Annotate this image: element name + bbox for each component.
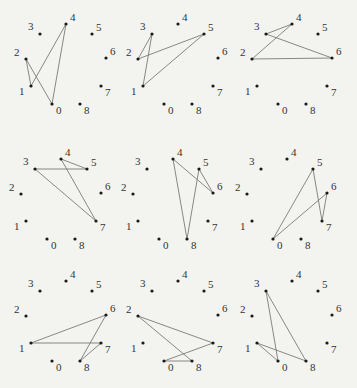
vertex-label-2: 2 <box>9 181 15 193</box>
vertex-3 <box>150 32 153 35</box>
vertex-2 <box>19 192 22 195</box>
vertex-5 <box>90 289 93 292</box>
vertex-0 <box>157 237 160 240</box>
edge-3-4 <box>266 24 292 34</box>
vertex-label-7: 7 <box>331 343 337 355</box>
vertex-1 <box>141 84 144 87</box>
vertex-8 <box>185 237 188 240</box>
vertex-label-0: 0 <box>56 361 62 373</box>
vertex-7 <box>320 219 323 222</box>
vertex-label-4: 4 <box>296 268 302 280</box>
vertex-3 <box>38 289 41 292</box>
vertex-5 <box>197 167 200 170</box>
vertex-5 <box>202 289 205 292</box>
vertex-label-8: 8 <box>305 239 311 251</box>
vertex-3 <box>259 167 262 170</box>
vertex-label-2: 2 <box>126 303 132 315</box>
vertex-8 <box>304 359 307 362</box>
vertex-4 <box>171 157 174 160</box>
vertex-label-5: 5 <box>322 21 328 33</box>
vertex-6 <box>104 56 107 59</box>
vertex-1 <box>255 341 258 344</box>
vertex-1 <box>29 84 32 87</box>
panel-2: 012345678 <box>126 11 228 116</box>
vertex-label-6: 6 <box>336 302 342 314</box>
vertex-label-2: 2 <box>235 181 241 193</box>
edge-6-0 <box>273 193 327 239</box>
vertex-2 <box>136 57 139 60</box>
edge-7-8 <box>80 343 101 361</box>
vertex-label-0: 0 <box>282 104 288 116</box>
vertex-label-7: 7 <box>100 221 106 233</box>
vertex-label-0: 0 <box>277 239 283 251</box>
vertex-label-1: 1 <box>19 342 25 354</box>
vertex-label-2: 2 <box>14 303 20 315</box>
vertex-label-4: 4 <box>182 268 188 280</box>
vertex-7 <box>99 341 102 344</box>
vertex-0 <box>276 359 279 362</box>
edge-4-5 <box>61 159 87 169</box>
vertex-3 <box>264 289 267 292</box>
vertex-label-5: 5 <box>96 21 102 33</box>
vertex-label-5: 5 <box>208 21 214 33</box>
vertex-4 <box>290 279 293 282</box>
vertex-7 <box>99 84 102 87</box>
vertex-label-3: 3 <box>249 155 255 167</box>
vertex-label-2: 2 <box>121 181 127 193</box>
edge-1-8 <box>257 343 306 361</box>
edge-2-7 <box>138 316 213 343</box>
vertex-label-2: 2 <box>240 303 246 315</box>
vertex-8 <box>304 102 307 105</box>
vertex-label-7: 7 <box>105 86 111 98</box>
panel-3: 012345678 <box>240 11 342 116</box>
vertex-label-5: 5 <box>203 156 209 168</box>
vertex-3 <box>145 167 148 170</box>
vertex-label-6: 6 <box>331 180 337 192</box>
vertex-label-6: 6 <box>110 45 116 57</box>
vertex-6 <box>99 191 102 194</box>
vertex-7 <box>206 219 209 222</box>
vertex-4 <box>176 279 179 282</box>
vertex-label-1: 1 <box>131 342 137 354</box>
vertex-2 <box>24 314 27 317</box>
vertex-label-8: 8 <box>191 239 197 251</box>
vertex-label-5: 5 <box>317 156 323 168</box>
vertex-label-3: 3 <box>28 20 34 32</box>
edge-6-1 <box>31 315 106 343</box>
vertex-0 <box>45 237 48 240</box>
vertex-label-2: 2 <box>240 46 246 58</box>
vertex-label-5: 5 <box>208 278 214 290</box>
vertex-3 <box>150 289 153 292</box>
vertex-label-0: 0 <box>163 239 169 251</box>
vertex-label-5: 5 <box>96 278 102 290</box>
vertex-8 <box>190 102 193 105</box>
vertex-6 <box>330 313 333 316</box>
vertex-label-1: 1 <box>131 85 137 97</box>
vertex-label-7: 7 <box>217 86 223 98</box>
vertex-1 <box>255 84 258 87</box>
panel-5: 012345678 <box>121 146 223 251</box>
edge-0-5 <box>273 169 313 239</box>
vertex-2 <box>131 192 134 195</box>
vertex-label-4: 4 <box>70 268 76 280</box>
vertex-label-6: 6 <box>222 302 228 314</box>
vertex-label-5: 5 <box>91 156 97 168</box>
vertex-6 <box>330 56 333 59</box>
vertex-label-7: 7 <box>217 343 223 355</box>
vertex-label-6: 6 <box>110 302 116 314</box>
vertex-8 <box>78 102 81 105</box>
vertex-label-4: 4 <box>177 146 183 158</box>
panel-1: 012345678 <box>14 11 116 116</box>
vertex-8 <box>190 359 193 362</box>
edge-6-5 <box>199 169 213 193</box>
vertex-label-8: 8 <box>84 104 90 116</box>
vertex-5 <box>316 289 319 292</box>
vertex-0 <box>162 359 165 362</box>
vertex-label-8: 8 <box>310 361 316 373</box>
edge-5-1 <box>143 34 204 86</box>
vertex-6 <box>104 313 107 316</box>
vertex-0 <box>50 102 53 105</box>
vertex-label-4: 4 <box>291 146 297 158</box>
vertex-1 <box>141 341 144 344</box>
vertex-6 <box>216 313 219 316</box>
